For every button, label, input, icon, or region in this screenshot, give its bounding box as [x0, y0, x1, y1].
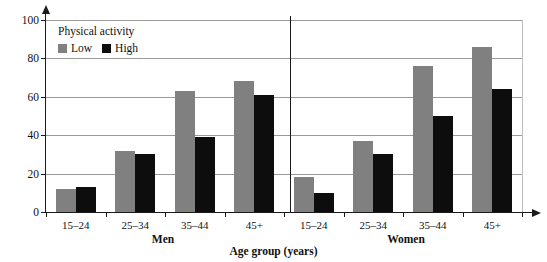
legend-label-high: High — [115, 41, 138, 55]
legend-swatch-high-icon — [102, 44, 111, 53]
x-tick-label: 15–24 — [284, 219, 344, 232]
x-tick-label: 45+ — [224, 219, 284, 232]
bar-high — [433, 116, 453, 212]
y-tick-label: 0 — [13, 207, 39, 217]
bar-low — [175, 91, 195, 212]
bar-low — [353, 141, 373, 212]
y-axis-arrow-icon — [42, 5, 50, 14]
x-tick-label: 15–24 — [46, 219, 106, 232]
x-tick-mark — [46, 212, 47, 217]
x-tick-mark — [225, 212, 226, 217]
x-tick-mark — [403, 212, 404, 217]
bar-high — [314, 193, 334, 212]
x-tick-label: 25–34 — [343, 219, 403, 232]
legend-title: Physical activity — [58, 24, 198, 39]
x-tick-mark — [165, 212, 166, 217]
incidence-bar-chart: Incidence (per 1000 person-years) 020406… — [0, 0, 547, 262]
y-tick-label: 80 — [13, 53, 39, 63]
legend-label-low: Low — [71, 41, 92, 55]
x-tick-label: 35–44 — [165, 219, 225, 232]
x-tick-mark — [106, 212, 107, 217]
x-tick-mark — [463, 212, 464, 217]
y-tick-label: 40 — [13, 130, 39, 140]
bar-high — [254, 95, 274, 212]
x-tick-label: 45+ — [462, 219, 522, 232]
legend-swatch-low-icon — [58, 44, 67, 53]
y-tick-label: 100 — [13, 15, 39, 25]
x-axis-arrow-icon — [532, 209, 541, 217]
x-axis-title: Age group (years) — [0, 245, 547, 257]
y-tick-label: 60 — [13, 92, 39, 102]
bar-high — [373, 154, 393, 212]
legend-entries: Low High — [58, 41, 198, 55]
bar-low — [472, 47, 492, 212]
legend: Physical activity Low High — [58, 24, 198, 55]
plot-right-edge — [522, 20, 523, 212]
x-tick-mark — [284, 212, 285, 217]
bar-high — [195, 137, 215, 212]
group-label-men: Men — [118, 233, 208, 245]
legend-item-high: High — [102, 41, 138, 55]
bar-low — [413, 66, 433, 212]
bar-low — [115, 151, 135, 212]
bar-high — [76, 187, 96, 212]
x-tick-mark — [522, 212, 523, 217]
x-tick-mark — [344, 212, 345, 217]
x-tick-label: 35–44 — [403, 219, 463, 232]
legend-item-low: Low — [58, 41, 92, 55]
panel-divider — [290, 16, 291, 212]
bar-low — [56, 189, 76, 212]
bar-high — [135, 154, 155, 212]
bar-high — [492, 89, 512, 212]
bar-low — [294, 177, 314, 212]
bar-low — [234, 81, 254, 212]
x-tick-label: 25–34 — [105, 219, 165, 232]
y-tick-label: 20 — [13, 169, 39, 179]
group-label-women: Women — [361, 233, 451, 245]
x-axis-line — [41, 212, 533, 213]
